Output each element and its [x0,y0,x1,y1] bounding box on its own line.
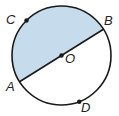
label-a: A [5,79,15,94]
label-d: D [81,100,90,115]
shaded-semicircle [12,6,103,82]
label-b: B [104,13,113,28]
point-c-dot [24,18,28,22]
label-c: C [6,12,16,27]
circle-diagram: A B C D O [0,0,119,116]
point-o-dot [59,53,63,57]
label-o: O [65,51,75,66]
